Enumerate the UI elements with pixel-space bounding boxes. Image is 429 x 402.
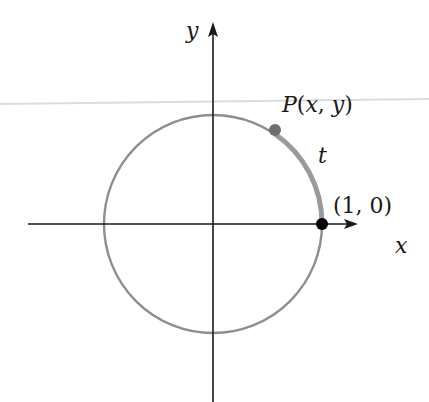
y-axis-label: y xyxy=(185,18,199,43)
point-start-label: (1, 0) xyxy=(333,193,392,218)
arc-t-label: t xyxy=(318,143,327,168)
arc-t xyxy=(275,134,322,224)
point-p xyxy=(269,124,281,136)
point-p-label: P(x, y) xyxy=(281,92,353,117)
point-start xyxy=(316,218,328,230)
faint-guide-line xyxy=(0,99,429,104)
unit-circle-diagram: y x P(x, y) t (1, 0) xyxy=(0,0,429,402)
x-axis-label: x xyxy=(395,233,408,258)
